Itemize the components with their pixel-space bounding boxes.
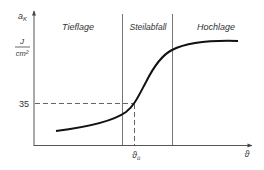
y-axis-tick-35: 35 <box>19 99 29 109</box>
region-label-tieflage: Tieflage <box>62 22 94 32</box>
transition-temperature-diagram: aK J cm² 35 Tieflage Steilabfall Hochlag… <box>0 0 264 170</box>
x-axis-symbol: ϑ <box>245 149 251 159</box>
y-axis-unit-denominator: cm² <box>16 49 29 58</box>
y-axis-symbol: aK <box>18 11 28 22</box>
impact-energy-curve <box>56 41 238 131</box>
region-label-hochlage: Hochlage <box>197 22 235 32</box>
transition-temperature-label: ϑü <box>132 150 141 161</box>
y-axis-unit-numerator: J <box>19 37 25 46</box>
region-label-steilabfall: Steilabfall <box>130 22 168 32</box>
